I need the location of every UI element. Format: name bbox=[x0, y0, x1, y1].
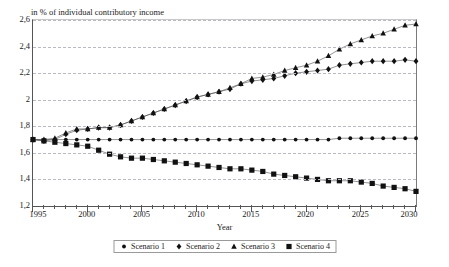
triangle-marker-icon bbox=[229, 242, 238, 251]
legend-item-1[interactable]: Scenario 1 bbox=[119, 242, 165, 251]
data-point bbox=[41, 138, 46, 143]
legend-label: Scenario 1 bbox=[131, 242, 165, 251]
data-point bbox=[370, 58, 375, 64]
data-point bbox=[370, 136, 374, 140]
x-axis-tick-mark bbox=[54, 205, 55, 209]
data-point bbox=[130, 138, 134, 142]
data-point bbox=[118, 154, 123, 159]
x-axis-tick-mark bbox=[371, 205, 372, 209]
data-point bbox=[359, 59, 364, 65]
data-point bbox=[249, 168, 254, 173]
data-point bbox=[64, 138, 68, 142]
data-point bbox=[381, 58, 386, 64]
y-axis-tick-label: 2,6 bbox=[19, 14, 30, 24]
data-point bbox=[413, 21, 419, 26]
circle-marker-icon bbox=[119, 242, 128, 251]
gridline bbox=[33, 126, 416, 127]
data-point bbox=[316, 138, 320, 142]
x-axis-tick-mark bbox=[207, 205, 208, 209]
data-point bbox=[392, 58, 397, 64]
data-point bbox=[348, 41, 354, 46]
data-point bbox=[162, 138, 166, 142]
data-point bbox=[63, 130, 69, 135]
legend-item-3[interactable]: Scenario 3 bbox=[229, 242, 275, 251]
data-point bbox=[228, 138, 232, 142]
diamond-marker-icon bbox=[174, 242, 183, 251]
chart-title: in % of individual contributory income bbox=[31, 7, 164, 17]
data-point bbox=[151, 138, 155, 142]
legend-item-2[interactable]: Scenario 2 bbox=[174, 242, 220, 251]
x-axis-tick-mark bbox=[317, 205, 318, 209]
data-point bbox=[304, 62, 310, 67]
data-point bbox=[108, 138, 112, 142]
data-point bbox=[227, 85, 233, 90]
data-point bbox=[337, 62, 342, 68]
x-axis-tick-mark bbox=[174, 205, 175, 209]
data-point bbox=[205, 164, 210, 169]
x-axis-tick-mark bbox=[349, 205, 350, 209]
x-axis-tick-mark bbox=[338, 205, 339, 209]
y-axis-tick-label: 1,2 bbox=[19, 200, 30, 210]
x-axis-tick-mark bbox=[185, 205, 186, 209]
chart-legend: Scenario 1Scenario 2Scenario 3Scenario 4 bbox=[113, 240, 336, 253]
data-point bbox=[403, 57, 408, 63]
plot-area bbox=[32, 19, 417, 207]
data-point bbox=[75, 138, 79, 142]
data-point bbox=[338, 136, 342, 140]
x-axis-tick-mark bbox=[262, 205, 263, 209]
y-axis-tick-label: 1,6 bbox=[19, 147, 30, 157]
data-point bbox=[250, 138, 254, 142]
data-point bbox=[195, 138, 199, 142]
legend-label: Scenario 4 bbox=[296, 242, 330, 251]
data-point bbox=[141, 138, 145, 142]
data-point bbox=[391, 26, 397, 31]
x-axis-tick-label: 2005 bbox=[133, 209, 150, 219]
x-axis-tick-mark bbox=[163, 205, 164, 209]
legend-label: Scenario 3 bbox=[241, 242, 275, 251]
data-point bbox=[327, 138, 331, 142]
legend-item-4[interactable]: Scenario 4 bbox=[284, 242, 330, 251]
data-point bbox=[184, 161, 189, 166]
data-point bbox=[348, 136, 352, 140]
gridline bbox=[33, 153, 416, 154]
data-point bbox=[282, 173, 287, 178]
data-point bbox=[195, 162, 200, 167]
x-axis-tick-mark bbox=[327, 205, 328, 209]
x-axis-tick-label: 2000 bbox=[78, 209, 95, 219]
data-point bbox=[326, 53, 332, 58]
y-axis-tick-label: 1,8 bbox=[19, 120, 30, 130]
data-point bbox=[217, 138, 221, 142]
data-point bbox=[414, 136, 418, 140]
data-point bbox=[119, 138, 123, 142]
data-point bbox=[216, 165, 221, 170]
series-layer bbox=[33, 20, 416, 206]
data-point bbox=[414, 58, 419, 64]
data-point bbox=[359, 136, 363, 140]
x-axis-tick-label: 1995 bbox=[30, 209, 47, 219]
data-point bbox=[272, 138, 276, 142]
y-axis-tick-label: 2 bbox=[26, 94, 30, 104]
x-axis-tick-label: 2025 bbox=[352, 209, 369, 219]
x-axis-tick-label: 2030 bbox=[401, 209, 418, 219]
x-axis-tick-mark bbox=[393, 205, 394, 209]
data-point bbox=[326, 66, 331, 72]
data-point bbox=[260, 169, 265, 174]
data-point bbox=[403, 136, 407, 140]
x-axis-tick-mark bbox=[273, 205, 274, 209]
data-point bbox=[97, 138, 101, 142]
x-axis-label: Year bbox=[0, 222, 449, 232]
y-axis-tick-label: 2,2 bbox=[19, 67, 30, 77]
data-point bbox=[348, 61, 353, 67]
data-point bbox=[381, 136, 385, 140]
series-scenario-1 bbox=[31, 136, 418, 141]
data-point bbox=[392, 136, 396, 140]
data-point bbox=[184, 138, 188, 142]
x-axis-tick-mark bbox=[76, 205, 77, 209]
data-point bbox=[63, 141, 68, 146]
data-point bbox=[271, 172, 276, 177]
x-axis-tick-label: 2020 bbox=[297, 209, 314, 219]
data-point bbox=[129, 156, 134, 161]
x-axis-tick-mark bbox=[98, 205, 99, 209]
data-point bbox=[52, 140, 57, 145]
gridline bbox=[33, 47, 416, 48]
